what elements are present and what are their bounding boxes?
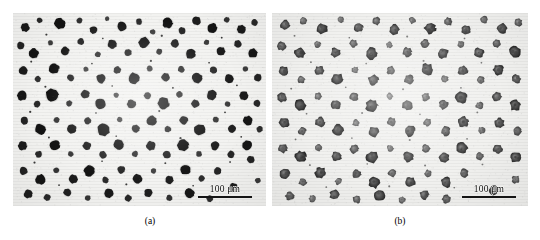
scale-bar-b: 100 μm xyxy=(462,184,516,198)
scale-bar-label-b: 100 μm xyxy=(462,184,516,194)
panel-caption-a: (a) xyxy=(139,216,161,226)
micrograph-panel-a xyxy=(13,13,266,206)
scale-bar-a: 100 μm xyxy=(198,184,252,198)
micrograph-image-a xyxy=(13,13,266,206)
scale-bar-label-a: 100 μm xyxy=(198,184,252,194)
figure-container: 100 μm (a) 100 μm (b) xyxy=(0,0,540,240)
scale-bar-line-a xyxy=(198,196,252,198)
micrograph-panel-b xyxy=(272,13,528,206)
scale-bar-line-b xyxy=(462,196,516,198)
micrograph-image-b xyxy=(272,13,528,206)
panel-caption-b: (b) xyxy=(389,216,411,226)
